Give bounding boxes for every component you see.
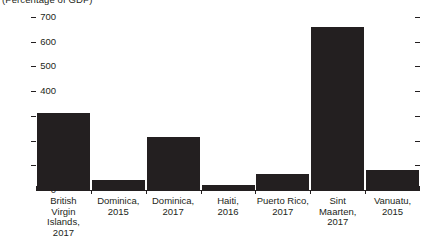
x-axis-category-label: Dominica, 2017	[146, 196, 201, 217]
x-axis-category-label: British Virgin Islands, 2017	[36, 196, 91, 238]
bar	[37, 113, 90, 190]
x-axis-category-label: Puerto Rico, 2017	[255, 196, 310, 217]
x-axis-line	[36, 190, 420, 191]
y-tick-right	[415, 42, 420, 43]
x-axis-category-label: Dominica, 2015	[91, 196, 146, 217]
bar-chart: (Percentage of GDP) 70060050040030020010…	[0, 0, 430, 247]
y-axis-tick-label: 400	[10, 86, 56, 96]
y-axis-tick-label: 500	[10, 61, 56, 71]
y-tick-right	[415, 116, 420, 117]
bar	[256, 174, 309, 190]
axis-right-stub	[419, 186, 420, 191]
y-tick-right	[415, 17, 420, 18]
plot-area: 7006005004003002001000 British Virgin Is…	[0, 0, 430, 247]
axis-origin-stub	[36, 186, 37, 191]
x-axis-category-label: Vanuatu, 2015	[365, 196, 420, 217]
bar	[366, 170, 419, 190]
x-axis-category-label: Sint Maarten, 2017	[310, 196, 365, 228]
y-axis-tick-label: 700	[10, 12, 56, 22]
y-axis-tick-label: 600	[10, 37, 56, 47]
y-tick-right	[415, 165, 420, 166]
bar	[147, 137, 200, 190]
y-tick-right	[415, 141, 420, 142]
y-tick-right	[415, 66, 420, 67]
bar	[92, 180, 145, 190]
x-axis-category-label: Haiti, 2016	[201, 196, 256, 217]
y-tick-right	[415, 91, 420, 92]
bar	[311, 27, 364, 190]
